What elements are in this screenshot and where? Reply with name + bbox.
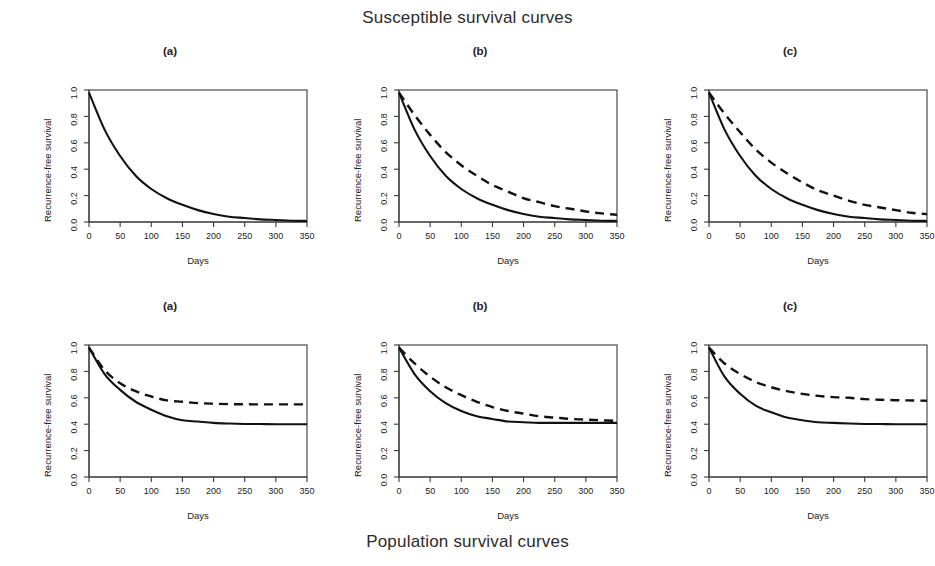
survival-curve-dashed — [709, 348, 927, 401]
plot-panel: (c)0.00.20.40.60.81.00501001502002503003… — [640, 45, 935, 295]
x-axis-title: Days — [399, 255, 617, 266]
x-axis-title: Days — [89, 255, 307, 266]
y-tick-label: 0.2 — [689, 192, 699, 205]
x-tick-label: 0 — [396, 231, 401, 241]
y-tick-label: 0.0 — [689, 219, 699, 232]
plot-panel: (c)0.00.20.40.60.81.00501001502002503003… — [640, 300, 935, 550]
x-tick-label: 200 — [826, 486, 841, 496]
y-tick-label: 0.4 — [689, 166, 699, 179]
x-tick-label: 50 — [425, 486, 435, 496]
x-tick-label: 200 — [206, 486, 221, 496]
y-tick-label: 0.8 — [689, 113, 699, 126]
y-tick-label: 0.2 — [689, 447, 699, 460]
x-tick-label: 100 — [454, 231, 469, 241]
y-tick-label: 0.8 — [379, 113, 389, 126]
y-tick-label: 1.0 — [69, 342, 79, 355]
x-tick-label: 100 — [764, 486, 779, 496]
y-axis-title: Recurrence-free survival — [662, 374, 673, 477]
x-tick-label: 200 — [516, 231, 531, 241]
y-tick-label: 0.4 — [69, 421, 79, 434]
y-tick-label: 0.0 — [379, 219, 389, 232]
plot-frame — [709, 345, 927, 477]
x-tick-label: 300 — [268, 486, 283, 496]
x-tick-label: 200 — [516, 486, 531, 496]
x-axis-title: Days — [709, 255, 927, 266]
plot-panel: (b)0.00.20.40.60.81.00501001502002503003… — [330, 45, 630, 295]
x-tick-label: 0 — [706, 231, 711, 241]
plot-frame — [709, 90, 927, 222]
x-tick-label: 300 — [888, 486, 903, 496]
y-tick-label: 0.6 — [69, 140, 79, 153]
survival-curve-dashed — [89, 348, 307, 405]
x-tick-label: 150 — [175, 231, 190, 241]
figure-canvas: Susceptible survival curves (a)0.00.20.4… — [0, 0, 935, 566]
x-tick-label: 150 — [795, 231, 810, 241]
y-tick-label: 0.4 — [689, 421, 699, 434]
y-tick-label: 1.0 — [69, 87, 79, 100]
y-tick-label: 0.6 — [69, 395, 79, 408]
x-tick-label: 50 — [115, 486, 125, 496]
x-tick-label: 0 — [86, 486, 91, 496]
x-tick-label: 300 — [268, 231, 283, 241]
y-tick-label: 0.4 — [379, 421, 389, 434]
x-tick-label: 200 — [206, 231, 221, 241]
plot-panel: (a)0.00.20.40.60.81.00501001502002503003… — [20, 45, 320, 295]
x-tick-label: 0 — [706, 486, 711, 496]
y-tick-label: 0.8 — [379, 368, 389, 381]
x-axis-title: Days — [399, 510, 617, 521]
survival-curve-solid — [709, 93, 927, 221]
x-tick-label: 350 — [919, 231, 934, 241]
plot-frame — [89, 90, 307, 222]
x-tick-label: 350 — [299, 486, 314, 496]
y-axis-title: Recurrence-free survival — [352, 119, 363, 222]
x-tick-label: 300 — [578, 231, 593, 241]
x-tick-label: 350 — [299, 231, 314, 241]
x-tick-label: 350 — [609, 231, 624, 241]
survival-curve-dashed — [399, 348, 617, 421]
plot-panel: (a)0.00.20.40.60.81.00501001502002503003… — [20, 300, 320, 550]
x-tick-label: 50 — [115, 231, 125, 241]
y-axis-title: Recurrence-free survival — [352, 374, 363, 477]
y-tick-label: 1.0 — [379, 342, 389, 355]
y-tick-label: 0.2 — [69, 447, 79, 460]
x-tick-label: 250 — [547, 231, 562, 241]
x-tick-label: 150 — [795, 486, 810, 496]
survival-curve-dashed — [709, 93, 927, 214]
x-tick-label: 100 — [144, 486, 159, 496]
plot-frame — [89, 345, 307, 477]
y-tick-label: 0.2 — [379, 447, 389, 460]
x-tick-label: 300 — [888, 231, 903, 241]
x-axis-title: Days — [709, 510, 927, 521]
x-tick-label: 150 — [175, 486, 190, 496]
y-tick-label: 0.0 — [69, 474, 79, 487]
x-tick-label: 150 — [485, 231, 500, 241]
x-tick-label: 350 — [919, 486, 934, 496]
x-axis-title: Days — [89, 510, 307, 521]
survival-curve-dashed — [399, 93, 617, 215]
y-tick-label: 0.8 — [69, 368, 79, 381]
y-tick-label: 0.6 — [689, 395, 699, 408]
y-axis-title: Recurrence-free survival — [662, 119, 673, 222]
x-tick-label: 100 — [144, 231, 159, 241]
y-tick-label: 0.8 — [689, 368, 699, 381]
y-tick-label: 1.0 — [689, 87, 699, 100]
y-tick-label: 0.4 — [69, 166, 79, 179]
bottom-figure-title: Population survival curves — [0, 532, 935, 552]
x-tick-label: 250 — [857, 486, 872, 496]
x-tick-label: 50 — [735, 486, 745, 496]
y-tick-label: 0.0 — [69, 219, 79, 232]
y-tick-label: 0.4 — [379, 166, 389, 179]
x-tick-label: 200 — [826, 231, 841, 241]
plot-frame — [399, 90, 617, 222]
plot-panel: (b)0.00.20.40.60.81.00501001502002503003… — [330, 300, 630, 550]
survival-curve-solid — [89, 93, 307, 221]
survival-curve-solid — [399, 93, 617, 221]
survival-curve-solid — [709, 348, 927, 425]
top-figure-title: Susceptible survival curves — [0, 8, 935, 28]
y-tick-label: 0.6 — [379, 140, 389, 153]
y-tick-label: 0.8 — [69, 113, 79, 126]
y-tick-label: 0.2 — [379, 192, 389, 205]
y-tick-label: 0.2 — [69, 192, 79, 205]
y-tick-label: 0.6 — [379, 395, 389, 408]
y-axis-title: Recurrence-free survival — [42, 119, 53, 222]
